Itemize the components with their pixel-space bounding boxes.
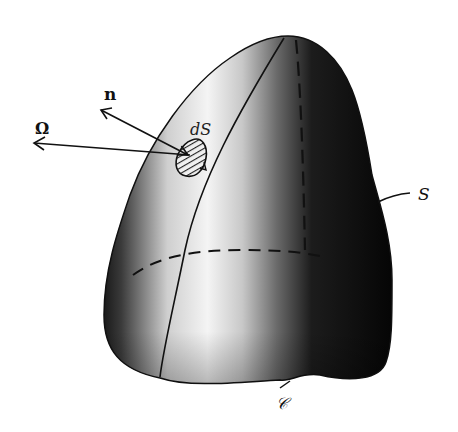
label-dS: dS	[190, 120, 211, 139]
label-S: S	[418, 184, 430, 204]
surface-diagram: n Ω dS S 𝒞	[0, 0, 458, 432]
surface-S-leader	[378, 193, 410, 202]
label-omega: Ω	[35, 119, 49, 138]
label-n: n	[104, 84, 116, 104]
label-C: 𝒞	[276, 394, 292, 413]
boundary-C-leader	[280, 381, 290, 388]
